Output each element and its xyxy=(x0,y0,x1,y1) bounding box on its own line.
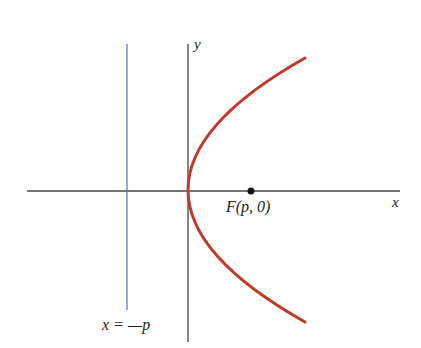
x-axis-label: x xyxy=(392,194,399,211)
parabola-curve xyxy=(188,58,305,322)
focus-label: F(p, 0) xyxy=(226,198,270,216)
y-axis-label: y xyxy=(194,36,201,53)
directrix-label: x = —p xyxy=(102,316,150,334)
parabola-diagram xyxy=(0,0,421,348)
focus-point xyxy=(248,188,255,195)
